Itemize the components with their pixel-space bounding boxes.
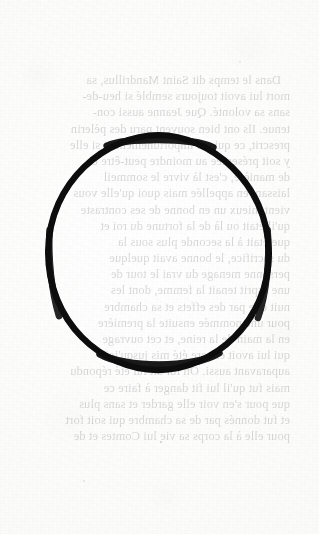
paper-background <box>0 0 319 534</box>
scanned-page: Dans le temps dit Saint Mandrillus, sa m… <box>0 0 319 534</box>
